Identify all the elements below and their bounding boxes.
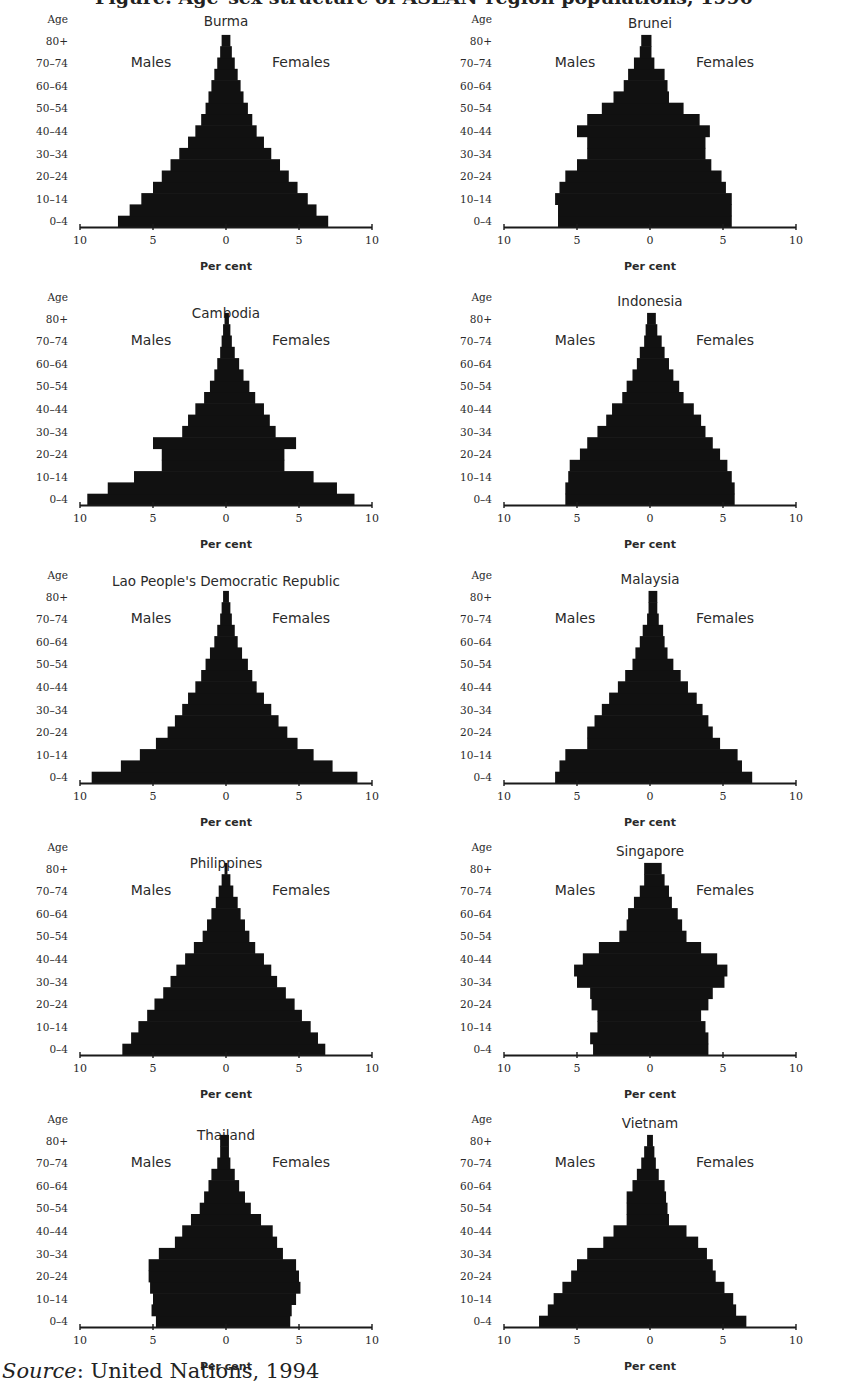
female-bar [650,976,724,988]
female-bar [650,999,708,1011]
age-tick-label: 20–24 [460,998,492,1010]
female-bar [650,886,669,898]
female-bar [650,460,727,472]
age-tick-label: 10–14 [36,1293,68,1305]
x-axis-title: Per cent [200,260,252,273]
male-bar [214,69,226,81]
female-bar [650,987,713,999]
male-bar [131,1032,226,1044]
female-bar [226,1225,273,1237]
female-bar [650,204,732,216]
male-bar [637,358,650,370]
male-bar [152,1304,226,1316]
male-bar [217,58,226,70]
female-bar [650,159,711,171]
female-bar [226,1191,245,1203]
female-bar [650,1191,666,1203]
male-bar [647,614,650,626]
male-bar [162,171,226,183]
female-bar [650,137,705,149]
female-bar [650,437,713,449]
x-tick-label: 0 [223,234,230,247]
male-bar [182,704,226,716]
age-tick-label: 20–24 [460,1270,492,1282]
male-bar [195,681,226,693]
female-bar [650,1282,724,1294]
age-tick-label: 40–44 [460,681,492,693]
male-bar [577,159,650,171]
male-bar [163,987,226,999]
female-bar [650,347,665,359]
female-bar [650,69,665,81]
pyramid-chart: BurmaAge0–410–1420–2430–3440–4450–5460–6… [0,10,424,282]
source-label: Source [2,1359,77,1383]
male-bar [92,772,226,784]
x-tick-label: 10 [365,1334,379,1347]
male-bar [195,125,226,137]
female-bar [650,727,713,739]
male-bar [121,760,226,772]
male-bar [587,738,650,750]
x-tick-label: 5 [574,512,581,525]
female-bar [650,738,720,750]
female-bar [650,35,651,47]
age-tick-label: 40–44 [460,403,492,415]
x-axis-title: Per cent [624,1088,676,1101]
female-bar [650,1214,669,1226]
male-bar [179,148,226,160]
age-tick-label: 10–14 [36,193,68,205]
male-bar [188,693,226,705]
female-bar [226,749,314,761]
male-bar [583,953,650,965]
female-bar [650,772,752,784]
female-bar [650,426,705,438]
age-tick-label: 10–14 [36,471,68,483]
females-label: Females [272,1154,330,1170]
female-bar [226,80,241,92]
country-title: Lao People's Democratic Republic [112,573,340,589]
male-bar [602,103,650,115]
x-tick-label: 5 [150,790,157,803]
male-bar [577,125,650,137]
female-bar [226,738,298,750]
x-tick-label: 5 [296,1062,303,1075]
females-label: Females [272,610,330,626]
x-tick-label: 10 [789,234,803,247]
female-bar [650,953,717,965]
age-tick-label: 20–24 [36,170,68,182]
male-bar [222,336,226,348]
female-bar [650,494,735,506]
male-bar [571,1271,650,1283]
female-bar [226,965,271,977]
female-bar [650,636,665,648]
female-bar [650,125,710,137]
female-bar [226,171,289,183]
pyramid-chart: Lao People's Democratic RepublicAge0–410… [0,566,424,838]
pyramid-panel-burma: BurmaAge0–410–1420–2430–3440–4450–5460–6… [0,10,424,282]
female-bar [226,1293,296,1305]
age-tick-label: 50–54 [460,380,492,392]
age-tick-label: 30–34 [460,1248,492,1260]
female-bar [226,336,232,348]
x-tick-label: 5 [574,790,581,803]
male-bar [217,625,226,637]
female-bar [650,681,688,693]
female-bar [226,908,241,920]
x-axis-title: Per cent [200,538,252,551]
female-bar [226,347,235,359]
age-tick-label: 70–74 [460,57,492,69]
female-bar [650,148,705,160]
x-tick-label: 10 [73,1062,87,1075]
male-bar [640,347,650,359]
female-bar [226,1282,300,1294]
male-bar [153,1293,226,1305]
x-tick-label: 5 [150,512,157,525]
male-bar [580,449,650,461]
male-bar [108,482,226,494]
male-bar [156,1316,226,1328]
age-tick-label: 50–54 [460,102,492,114]
age-tick-label: 0–4 [473,493,492,505]
male-bar [147,1010,226,1022]
age-axis-title: Age [470,291,492,303]
female-bar [226,159,280,171]
